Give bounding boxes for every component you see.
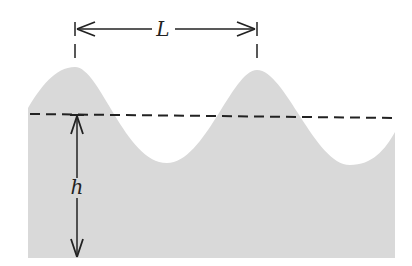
depth-label: h: [71, 175, 84, 199]
wavelength-label: L: [155, 17, 169, 41]
wave-diagram: L h: [0, 0, 412, 266]
water-region: [28, 67, 395, 258]
